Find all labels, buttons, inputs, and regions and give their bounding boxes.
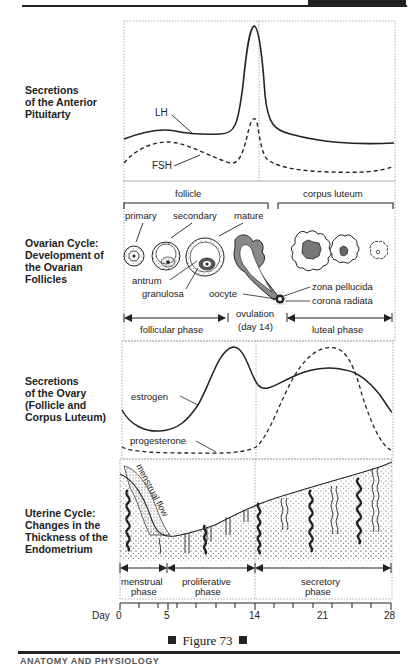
- tick-label-21: 21: [317, 610, 329, 621]
- follicle-bracket-label: follicle: [175, 188, 201, 199]
- tick-label-28: 28: [384, 610, 396, 621]
- day-axis-label: Day: [92, 610, 110, 621]
- zona-pellucida-label: zona pellucida: [312, 281, 373, 292]
- tick-label-14: 14: [249, 610, 261, 621]
- tick-label-0: 0: [116, 610, 122, 621]
- square-bullet-icon: [168, 636, 176, 644]
- estrogen-label: estrogen: [131, 391, 168, 402]
- estrogen-curve: [122, 347, 392, 431]
- corpus-albicans: [370, 241, 387, 258]
- figure-caption: Figure 73: [0, 633, 415, 649]
- mature-label: mature: [234, 210, 264, 221]
- tick-label-5: 5: [164, 610, 170, 621]
- menstrual-phase-label-2: phase: [131, 586, 157, 597]
- secretory-phase-label-2: phase: [305, 586, 331, 597]
- secondary-label: secondary: [173, 210, 217, 221]
- lh-label: LH: [155, 107, 168, 118]
- day-axis: [120, 603, 391, 610]
- proliferative-phase-label-2: phase: [195, 586, 221, 597]
- follicular-phase-label: follicular phase: [140, 324, 203, 335]
- square-bullet-icon: [239, 636, 247, 644]
- ovulation-label: ovulation: [236, 308, 274, 319]
- progesterone-label: progesterone: [130, 435, 186, 446]
- primary-label: primary: [125, 210, 157, 221]
- oocyte-label: oocyte: [209, 288, 237, 299]
- corpus-luteum-medium: [330, 235, 359, 263]
- antrum-label: antrum: [132, 275, 162, 286]
- corpus-luteum-bracket: [278, 203, 393, 209]
- corpus-luteum-large: [291, 231, 331, 271]
- follicle-bracket: [124, 203, 268, 209]
- uterine-phase-arrows: [120, 563, 391, 573]
- figure-diagram: LH FSH follicle corpus luteum primary se…: [0, 0, 415, 667]
- ovulation-day-label: (day 14): [238, 321, 273, 332]
- mature-follicle: [186, 238, 224, 276]
- granulosa-label: granulosa: [142, 288, 184, 299]
- fsh-label: FSH: [152, 160, 172, 171]
- footer-text: ANATOMY AND PHYSIOLOGY: [20, 656, 159, 666]
- primary-follicle: [124, 246, 144, 266]
- corona-radiata-label: corona radiata: [312, 295, 373, 306]
- luteal-phase-label: luteal phase: [312, 324, 363, 335]
- ruptured-follicle: [234, 235, 288, 307]
- corpus-luteum-bracket-label: corpus luteum: [303, 188, 363, 199]
- endometrium-illustration: menstrual flow: [120, 462, 392, 561]
- footer-rule: [18, 651, 400, 654]
- secondary-follicle: [152, 242, 180, 270]
- caption-text: Figure 73: [182, 633, 232, 648]
